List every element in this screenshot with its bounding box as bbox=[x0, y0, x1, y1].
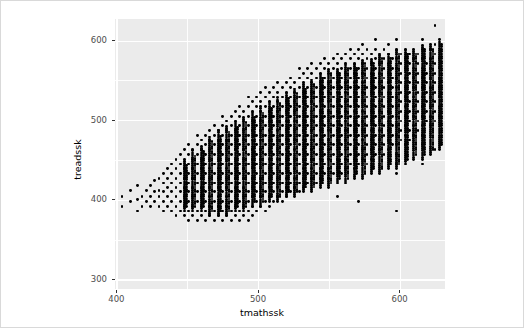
data-point bbox=[323, 153, 326, 156]
data-point bbox=[245, 205, 248, 208]
data-point bbox=[183, 195, 186, 198]
data-point bbox=[296, 178, 299, 181]
data-point bbox=[421, 48, 424, 51]
data-point bbox=[370, 72, 373, 75]
data-point bbox=[245, 178, 248, 181]
data-point bbox=[179, 153, 182, 156]
data-point bbox=[225, 158, 228, 161]
data-point bbox=[302, 72, 305, 75]
data-point bbox=[170, 182, 173, 185]
data-point bbox=[349, 57, 352, 60]
data-point bbox=[315, 143, 318, 146]
data-point bbox=[336, 68, 339, 71]
data-point bbox=[323, 115, 326, 118]
data-point bbox=[366, 115, 369, 118]
data-point bbox=[141, 205, 144, 208]
data-point bbox=[438, 67, 441, 70]
data-point bbox=[434, 53, 437, 56]
data-point bbox=[361, 72, 364, 75]
data-point bbox=[162, 190, 165, 193]
data-point bbox=[221, 115, 224, 118]
data-point bbox=[330, 175, 333, 178]
data-point bbox=[315, 182, 318, 185]
data-point bbox=[251, 100, 254, 103]
y-tick-mark bbox=[112, 40, 115, 41]
data-point bbox=[272, 124, 275, 127]
data-point bbox=[234, 214, 237, 217]
data-point bbox=[421, 105, 424, 108]
data-point bbox=[381, 62, 384, 65]
data-point bbox=[429, 115, 432, 118]
data-point bbox=[217, 158, 220, 161]
data-point bbox=[387, 129, 390, 132]
data-point bbox=[332, 143, 335, 146]
data-point bbox=[279, 147, 282, 150]
data-point bbox=[347, 167, 350, 170]
data-point bbox=[145, 200, 148, 203]
data-point bbox=[196, 200, 199, 203]
data-point bbox=[417, 91, 420, 94]
data-point bbox=[238, 134, 241, 137]
data-point bbox=[408, 81, 411, 84]
data-point bbox=[279, 138, 282, 141]
data-point bbox=[425, 110, 428, 113]
data-point bbox=[251, 120, 254, 123]
data-point bbox=[296, 92, 299, 95]
data-point bbox=[349, 143, 352, 146]
data-point bbox=[187, 200, 190, 203]
data-point bbox=[336, 91, 339, 94]
data-point bbox=[306, 77, 309, 80]
data-point bbox=[327, 158, 330, 161]
data-point bbox=[344, 53, 347, 56]
data-point bbox=[251, 195, 254, 198]
data-point bbox=[247, 115, 250, 118]
data-point bbox=[366, 67, 369, 70]
data-point bbox=[313, 176, 316, 179]
data-point bbox=[421, 134, 424, 137]
data-point bbox=[281, 124, 284, 127]
data-point bbox=[378, 91, 381, 94]
data-point bbox=[238, 200, 241, 203]
data-point bbox=[383, 134, 386, 137]
data-point bbox=[247, 134, 250, 137]
data-point bbox=[417, 100, 420, 103]
data-point bbox=[208, 214, 211, 217]
data-point bbox=[353, 81, 356, 84]
data-point bbox=[200, 148, 203, 151]
data-point bbox=[175, 167, 178, 170]
data-point bbox=[372, 165, 375, 168]
data-point bbox=[221, 153, 224, 156]
data-point bbox=[170, 163, 173, 166]
data-point bbox=[391, 105, 394, 108]
data-point bbox=[315, 163, 318, 166]
data-point bbox=[272, 115, 275, 118]
data-point bbox=[404, 57, 407, 60]
data-point bbox=[319, 62, 322, 65]
data-point bbox=[389, 158, 392, 161]
data-point bbox=[340, 153, 343, 156]
data-point bbox=[281, 105, 284, 108]
data-point bbox=[332, 67, 335, 70]
data-point bbox=[374, 153, 377, 156]
data-point bbox=[129, 189, 132, 192]
data-point bbox=[264, 105, 267, 108]
x-axis-title: tmathssk bbox=[1, 307, 523, 318]
data-point bbox=[395, 115, 398, 118]
data-point bbox=[415, 93, 418, 96]
data-point bbox=[315, 134, 318, 137]
data-point bbox=[383, 86, 386, 89]
y-tick-mark bbox=[112, 120, 115, 121]
data-point bbox=[408, 120, 411, 123]
data-point bbox=[289, 86, 292, 89]
data-point bbox=[281, 200, 284, 203]
data-point bbox=[196, 172, 199, 175]
data-point bbox=[319, 129, 322, 132]
data-point bbox=[366, 143, 369, 146]
data-point bbox=[364, 165, 367, 168]
data-point bbox=[285, 91, 288, 94]
data-point bbox=[355, 172, 358, 175]
data-point bbox=[285, 110, 288, 113]
data-point bbox=[200, 205, 203, 208]
data-point bbox=[440, 134, 443, 137]
data-point bbox=[330, 179, 333, 182]
